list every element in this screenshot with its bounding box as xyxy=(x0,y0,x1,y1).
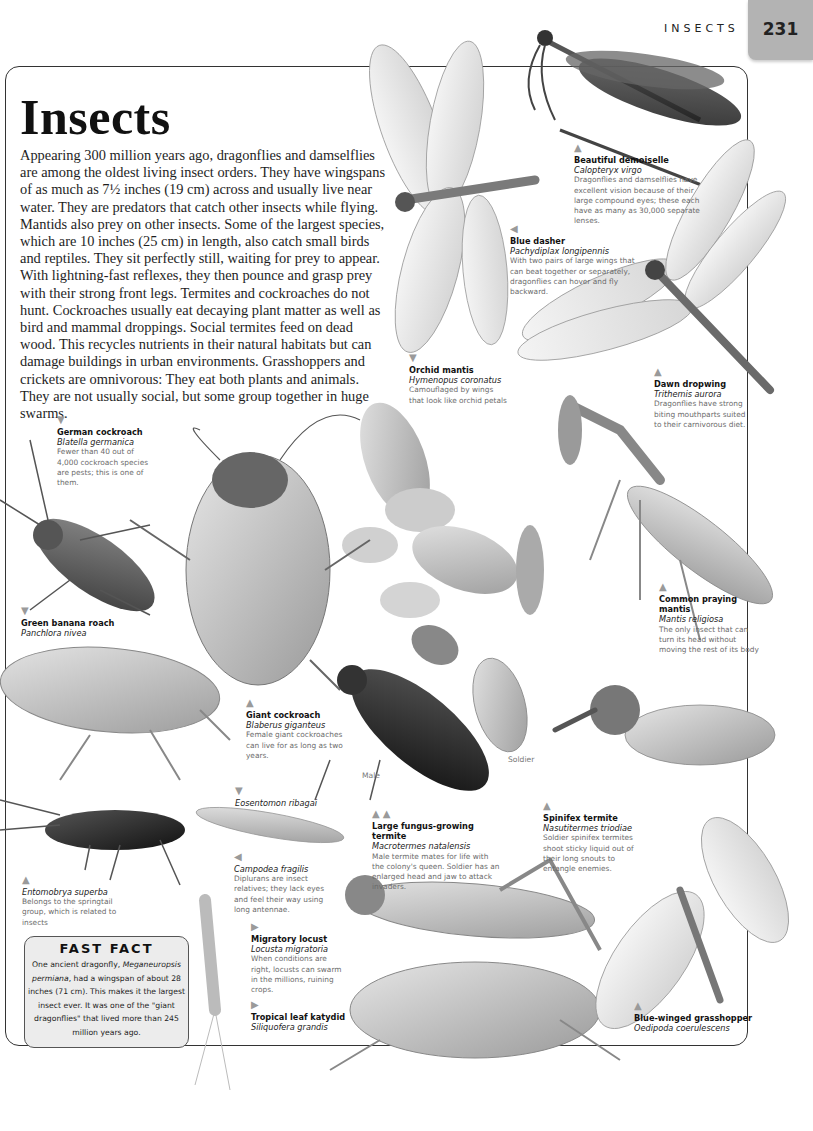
pointer-down-icon: ▼ xyxy=(409,352,509,365)
pointer-up-icon: ▲ xyxy=(543,800,648,813)
pointer-down-icon: ▼ xyxy=(235,785,345,798)
pointer-up-icon: ▲ xyxy=(246,697,356,710)
intro-paragraph: Appearing 300 million years ago, dragonf… xyxy=(20,147,390,422)
label-eosentomon: ▼ Eosentomon ribagai xyxy=(235,785,345,808)
pointer-right-icon: ▶ xyxy=(251,921,346,934)
page-number-tab: 231 xyxy=(748,0,813,60)
label-beautiful-demoiselle: ▲ Beautiful demoiselle Calopteryx virgo … xyxy=(574,142,714,226)
pointer-up-icon: ▲ xyxy=(634,1000,754,1013)
pointer-right-icon: ▶ xyxy=(251,999,361,1012)
pointer-up-icon: ▲ xyxy=(659,581,759,594)
pointer-up-pair-icon: ▲ ▲ xyxy=(372,808,502,821)
label-campodea: ◀ Campodea fragilis Diplurans are insect… xyxy=(234,851,334,915)
label-green-banana-roach: ▼ Green banana roach Panchlora nivea xyxy=(21,605,141,638)
fast-fact-title: FAST FACT xyxy=(25,941,188,956)
label-german-cockroach: ▼ German cockroach Blatella germanica Fe… xyxy=(57,414,157,488)
fast-fact-body: One ancient dragonfly, Meganeuropsis per… xyxy=(25,958,188,1040)
label-entomobrya: ▲ Entomobrya superba Belongs to the spri… xyxy=(22,874,132,928)
label-dawn-dropwing: ▲ Dawn dropwing Trithemis aurora Dragonf… xyxy=(654,366,749,430)
fast-fact-box: FAST FACT One ancient dragonfly, Meganeu… xyxy=(24,936,189,1048)
page-number: 231 xyxy=(763,19,799,39)
label-blue-winged-grasshopper: ▲ Blue-winged grasshopper Oedipoda coeru… xyxy=(634,1000,754,1033)
label-orchid-mantis: ▼ Orchid mantis Hymenopus coronatus Camo… xyxy=(409,352,509,406)
label-tropical-leaf-katydid: ▶ Tropical leaf katydid Siliquofera gran… xyxy=(251,999,361,1032)
pointer-left-icon: ◀ xyxy=(510,223,635,236)
pointer-down-icon: ▼ xyxy=(57,414,157,427)
pointer-up-icon: ▲ xyxy=(654,366,749,379)
page-title: Insects xyxy=(20,88,171,146)
pointer-up-icon: ▲ xyxy=(22,874,132,887)
label-spinifex-termite: ▲ Spinifex termite Nasutitermes triodiae… xyxy=(543,800,648,874)
label-giant-cockroach: ▲ Giant cockroach Blaberus giganteus Fem… xyxy=(246,697,356,761)
label-common-praying-mantis: ▲ Common praying mantis Mantis religiosa… xyxy=(659,581,759,655)
label-blue-dasher: ◀ Blue dasher Pachydiplax longipennis Wi… xyxy=(510,223,635,297)
pointer-down-icon: ▼ xyxy=(21,605,141,618)
label-migratory-locust: ▶ Migratory locust Locusta migratoria Wh… xyxy=(251,921,346,995)
label-large-fungus-growing-termite: ▲ ▲ Large fungus-growing termite Macrote… xyxy=(372,808,502,892)
label-soldier: Soldier xyxy=(508,755,534,765)
pointer-left-icon: ◀ xyxy=(234,851,334,864)
running-head: INSECTS xyxy=(664,22,739,35)
pointer-up-icon: ▲ xyxy=(574,142,714,155)
label-male: Male xyxy=(362,771,380,781)
